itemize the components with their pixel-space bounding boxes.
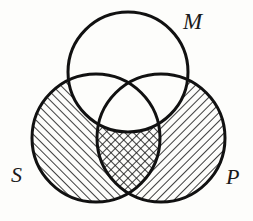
circle-label-p: P xyxy=(226,166,239,188)
circle-label-s: S xyxy=(11,164,22,186)
circle-label-m: M xyxy=(183,10,202,33)
venn-diagram-figure: M S P xyxy=(0,0,253,221)
venn-diagram-canvas xyxy=(0,0,253,221)
